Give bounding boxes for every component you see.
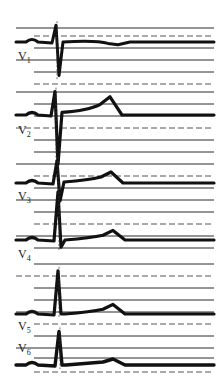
ecg-trace-v5	[16, 271, 214, 315]
lead-label-v5: V5	[18, 319, 31, 335]
ecg-trace-v1	[16, 25, 214, 75]
grid-lines	[16, 28, 214, 372]
lead-label-v6: V6	[18, 341, 31, 357]
ecg-trace-v6	[16, 331, 214, 366]
ecg-traces	[16, 21, 214, 369]
ecg-trace-v3	[16, 161, 214, 201]
lead-label-v3: V3	[18, 189, 31, 205]
lead-label-v4: V4	[18, 247, 31, 263]
lead-label-v1: V1	[18, 49, 31, 65]
ecg-strip: V1V2V3V4V5V6	[0, 0, 224, 391]
lead-label-v2: V2	[18, 123, 31, 139]
